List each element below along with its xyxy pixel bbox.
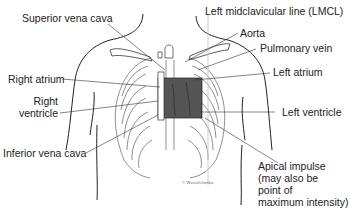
right-clavicle [110,49,152,61]
label-apical-impulse-3: point of [258,185,292,197]
artist-signature: © Wassilchenko [182,180,213,185]
label-lmcl: Left midclavicular line (LMCL) [205,6,343,18]
torso-outline-left [66,14,143,150]
left-clavicle [189,44,230,60]
label-right-atrium: Right atrium [8,74,65,86]
label-right-ventricle-1: Right [18,96,58,108]
label-apical-impulse-4: maximum intensity) [258,197,348,209]
label-apical-impulse-2: (may also be [258,173,318,185]
label-inferior-vena-cava: Inferior vena cava [3,148,86,160]
label-left-ventricle: Left ventricle [282,107,342,119]
label-left-atrium: Left atrium [273,67,323,79]
label-aorta: Aorta [240,28,265,40]
label-right-ventricle-2: ventricle [8,108,58,120]
label-superior-vena-cava: Superior vena cava [22,13,112,25]
label-apical-impulse-1: Apical impulse [258,161,326,173]
label-pulmonary-vein: Pulmonary vein [260,43,332,55]
